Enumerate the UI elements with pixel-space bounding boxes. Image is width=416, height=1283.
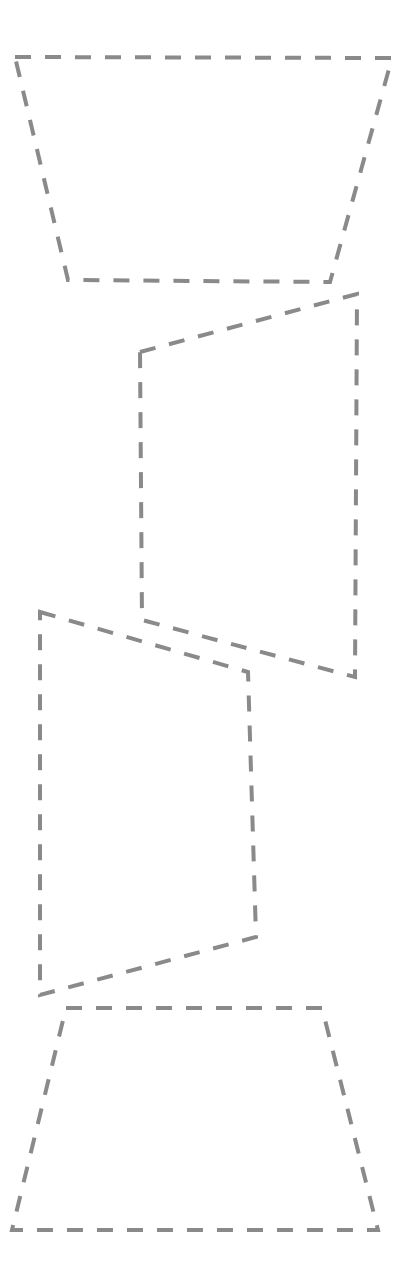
region-outline-2[interactable] [140,294,357,677]
region-outline-4[interactable] [12,1008,378,1230]
canvas-stage: Dashed region outlines [0,0,416,1283]
region-outline-1[interactable] [15,57,392,282]
region-outlines-layer [0,0,416,1283]
region-outline-3[interactable] [40,612,256,995]
